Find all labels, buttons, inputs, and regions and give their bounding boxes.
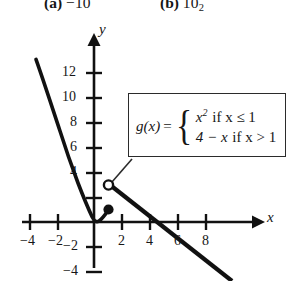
y-tick-label-6: 6 bbox=[70, 139, 77, 155]
x-tick-label-6: 6 bbox=[174, 233, 181, 249]
piecewise-definition-callout: g(x) = { x2 if x ≤ 1 4 − x if x > 1 bbox=[128, 93, 286, 157]
x-tick-label-2: 2 bbox=[118, 233, 125, 249]
closed-point-marker bbox=[103, 204, 113, 214]
y-tick-label-neg2: −2 bbox=[63, 238, 78, 254]
piecewise-case-2: 4 − x if x > 1 bbox=[196, 129, 277, 146]
linear-branch bbox=[110, 185, 233, 281]
case-2-condition: if x > 1 bbox=[231, 129, 277, 145]
y-tick-label-10: 10 bbox=[62, 89, 76, 105]
y-tick-label-12: 12 bbox=[62, 64, 76, 80]
equals-sign: = bbox=[163, 118, 171, 135]
x-tick-label-neg4: −4 bbox=[20, 233, 35, 249]
left-brace-icon: { bbox=[176, 105, 192, 145]
case-2-expression: 4 − x bbox=[196, 129, 228, 145]
case-1-condition: if x ≤ 1 bbox=[211, 109, 257, 125]
y-tick-label-4: 4 bbox=[70, 164, 77, 180]
x-tick-label-4: 4 bbox=[146, 233, 153, 249]
y-axis bbox=[88, 33, 101, 268]
y-tick-label-neg4: −4 bbox=[63, 263, 78, 279]
piecewise-cases: x2 if x ≤ 1 4 − x if x > 1 bbox=[196, 107, 277, 146]
figure-page: (a) −10 (b) 102 bbox=[0, 0, 297, 281]
graph-figure: y x 12 10 8 6 4 −2 −4 −4 −2 2 4 6 8 g(x)… bbox=[0, 0, 297, 281]
open-point-marker bbox=[104, 180, 113, 189]
x-tick-label-8: 8 bbox=[202, 233, 209, 249]
function-name-label: g(x) bbox=[136, 118, 160, 135]
piecewise-definition-content: g(x) = { x2 if x ≤ 1 4 − x if x > 1 bbox=[136, 101, 277, 151]
y-axis-label: y bbox=[99, 21, 106, 38]
callout-leader-line bbox=[112, 159, 132, 182]
x-tick-label-neg2: −2 bbox=[48, 233, 63, 249]
case-1-exponent: 2 bbox=[202, 107, 207, 118]
x-axis-label: x bbox=[267, 209, 274, 226]
piecewise-case-1: x2 if x ≤ 1 bbox=[196, 107, 277, 126]
y-tick-label-8: 8 bbox=[70, 114, 77, 130]
